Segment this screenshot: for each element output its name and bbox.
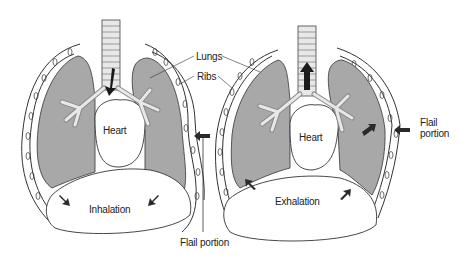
lungs-label: Lungs [196, 51, 222, 62]
ribs-label: Ribs [197, 71, 216, 82]
flail-label-line2: portion [420, 128, 449, 139]
flail-chest-diagram [0, 0, 461, 259]
heart-label-right: Heart [299, 132, 322, 143]
exhalation-caption: Exhalation [275, 196, 320, 207]
flail-label-line1: Flail [420, 117, 437, 128]
inhalation-caption: Inhalation [89, 204, 130, 215]
flail-arrow-icon [394, 125, 410, 135]
heart-label-left: Heart [103, 125, 126, 136]
flail-portion-label-bottom: Flail portion [180, 237, 229, 248]
